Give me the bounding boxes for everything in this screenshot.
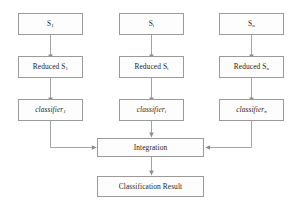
node-integration[interactable]: Integration — [97, 138, 204, 157]
node-reduced-sn-label: Reduced Sn — [234, 63, 269, 71]
arrowhead-integration-to-result — [149, 171, 154, 176]
node-reduced-si[interactable]: Reduced Si — [119, 56, 184, 78]
node-reduced-s1-label: Reduced S1 — [33, 63, 68, 71]
arrowhead-classifieri-to-integration — [149, 133, 154, 138]
node-integration-label: Integration — [134, 144, 168, 152]
node-classifier-i[interactable]: classifieri — [119, 99, 184, 121]
node-source-si[interactable]: Si — [119, 13, 184, 35]
arrow-classifiern-to-integration — [209, 121, 252, 148]
node-reduced-sn[interactable]: Reduced Sn — [219, 56, 284, 78]
flowchart-diagram: S1 Si Sn Reduced S1 Reduced Si Reduced S… — [0, 0, 295, 214]
node-source-s1-label: S1 — [47, 20, 54, 28]
node-classifier-i-label: classifieri — [137, 106, 167, 114]
node-classifier-1[interactable]: classifier1 — [18, 99, 83, 121]
node-classification-result-label: Classification Result — [119, 183, 182, 191]
node-source-sn[interactable]: Sn — [219, 13, 284, 35]
node-reduced-si-label: Reduced Si — [134, 63, 168, 71]
node-classification-result[interactable]: Classification Result — [97, 176, 204, 197]
node-classifier-n[interactable]: classifiern — [219, 99, 284, 121]
node-source-si-label: Si — [149, 20, 155, 28]
arrow-classifier1-to-integration — [51, 121, 94, 148]
node-classifier-n-label: classifiern — [236, 106, 267, 114]
node-classifier-1-label: classifier1 — [35, 106, 66, 114]
node-source-sn-label: Sn — [248, 20, 255, 28]
node-reduced-s1[interactable]: Reduced S1 — [18, 56, 83, 78]
node-source-s1[interactable]: S1 — [18, 13, 83, 35]
arrowhead-classifiern-to-integration — [205, 145, 210, 150]
